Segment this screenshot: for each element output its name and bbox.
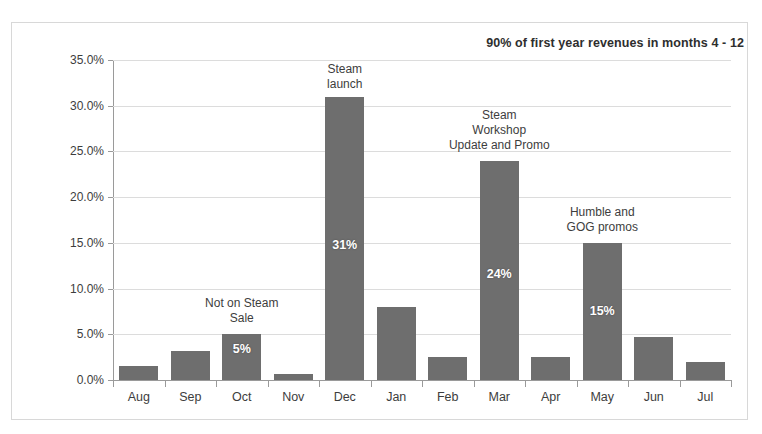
bar-nov[interactable] <box>274 374 313 380</box>
plot-area: 0.0%5.0%10.0%15.0%20.0%25.0%30.0%35.0% 5… <box>113 60 731 380</box>
x-tick-label-apr: Apr <box>541 390 560 404</box>
y-tick-label: 30.0% <box>70 99 104 113</box>
bar-slot-jan <box>371 60 423 380</box>
x-tick-mark <box>113 381 114 387</box>
y-tick-label: 20.0% <box>70 190 104 204</box>
annotation-line: launch <box>327 77 362 92</box>
bar-aug[interactable] <box>119 366 158 380</box>
x-tick-label-nov: Nov <box>282 390 304 404</box>
y-tick-label: 25.0% <box>70 144 104 158</box>
annotation-line: Update and Promo <box>449 138 550 153</box>
x-tick-mark <box>319 381 320 387</box>
x-tick-mark <box>422 381 423 387</box>
y-tick-label: 5.0% <box>77 327 104 341</box>
bar-value-label-mar: 24% <box>480 267 519 281</box>
x-tick-mark <box>371 381 372 387</box>
bars-layer: 5%31%24%15% <box>113 60 731 380</box>
annotation-line: Not on Steam <box>205 296 278 311</box>
bar-may[interactable]: 15% <box>583 243 622 380</box>
chart-figure: 90% of first year revenues in months 4 -… <box>0 0 762 434</box>
annotation-line: Steam <box>449 108 550 123</box>
bar-slot-oct: 5% <box>216 60 268 380</box>
x-tick-mark <box>577 381 578 387</box>
y-tick-label: 15.0% <box>70 236 104 250</box>
x-tick-label-oct: Oct <box>232 390 251 404</box>
y-tick-label: 0.0% <box>77 373 104 387</box>
annotation-line: Humble and <box>567 205 638 220</box>
bar-apr[interactable] <box>531 357 570 380</box>
x-tick-label-feb: Feb <box>437 390 459 404</box>
bar-feb[interactable] <box>428 357 467 380</box>
bar-sep[interactable] <box>171 351 210 380</box>
bar-mar[interactable]: 24% <box>480 161 519 380</box>
x-tick-label-may: May <box>590 390 614 404</box>
bar-slot-dec: 31% <box>319 60 371 380</box>
x-tick-label-dec: Dec <box>334 390 356 404</box>
x-tick-mark <box>474 381 475 387</box>
y-tick-label: 35.0% <box>70 53 104 67</box>
bar-value-label-oct: 5% <box>222 342 261 356</box>
annotation-dec: Steamlaunch <box>327 62 362 92</box>
bar-jun[interactable] <box>634 337 673 380</box>
x-axis-ticks: AugSepOctNovDecJanFebMarAprMayJunJul <box>113 381 731 411</box>
annotation-line: Workshop <box>449 123 550 138</box>
bar-oct[interactable]: 5% <box>222 334 261 380</box>
x-tick-mark <box>268 381 269 387</box>
annotation-may: Humble andGOG promos <box>567 205 638 235</box>
bar-slot-nov <box>268 60 320 380</box>
bar-value-label-dec: 31% <box>325 238 364 252</box>
bar-value-label-may: 15% <box>583 304 622 318</box>
x-tick-mark <box>216 381 217 387</box>
bar-slot-aug <box>113 60 165 380</box>
annotation-line: Sale <box>205 311 278 326</box>
x-tick-label-jun: Jun <box>644 390 664 404</box>
bar-jan[interactable] <box>377 307 416 380</box>
bar-slot-sep <box>165 60 217 380</box>
annotation-line: GOG promos <box>567 220 638 235</box>
bar-dec[interactable]: 31% <box>325 97 364 380</box>
x-tick-mark <box>628 381 629 387</box>
x-tick-label-sep: Sep <box>179 390 201 404</box>
bar-slot-jul <box>680 60 732 380</box>
x-tick-mark <box>165 381 166 387</box>
annotation-oct: Not on SteamSale <box>205 296 278 326</box>
annotation-mar: SteamWorkshopUpdate and Promo <box>449 108 550 153</box>
y-tick-label: 10.0% <box>70 282 104 296</box>
x-tick-mark <box>731 381 732 387</box>
x-tick-label-mar: Mar <box>488 390 510 404</box>
chart-title: 90% of first year revenues in months 4 -… <box>486 36 744 50</box>
bar-jul[interactable] <box>686 362 725 380</box>
x-tick-mark <box>680 381 681 387</box>
x-tick-mark <box>525 381 526 387</box>
x-tick-label-jul: Jul <box>697 390 713 404</box>
annotation-line: Steam <box>327 62 362 77</box>
x-tick-label-aug: Aug <box>128 390 150 404</box>
x-tick-label-jan: Jan <box>386 390 406 404</box>
